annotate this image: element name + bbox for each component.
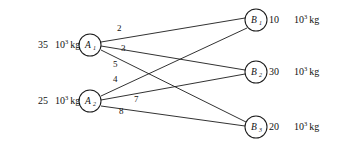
- edge-label-a2-b2: 7: [134, 94, 139, 104]
- node-a1-label: A: [84, 40, 91, 50]
- node-b3-subscript: 3: [258, 127, 262, 133]
- node-b2-subscript: 2: [259, 72, 262, 78]
- demand-b2-unit: 103kg: [294, 67, 319, 77]
- demand-b3-unit-base: 10: [294, 121, 304, 132]
- demand-b3-unit-exponent: 3: [304, 120, 307, 127]
- demand-b3-amount: 20: [269, 122, 279, 132]
- node-b1-subscript: 1: [259, 20, 262, 26]
- demand-b3-unit: 103kg: [294, 122, 319, 132]
- supply-a1-amount: 35: [30, 40, 48, 50]
- supply-a1-unit-exponent: 3: [65, 38, 68, 45]
- supply-a1-unit-base: 10: [55, 39, 65, 50]
- supply-a2-amount: 25: [30, 96, 48, 106]
- transportation-network-diagram: A 1 A 2 B 1 B 2 B 3 2 3 5 4 7 8 35 103kg…: [0, 0, 341, 149]
- edge-label-a1-b1: 2: [117, 23, 122, 33]
- supply-a2-unit-base: 10: [55, 95, 65, 106]
- demand-b2-amount: 30: [269, 67, 279, 77]
- demand-b2-unit-base: 10: [294, 66, 304, 77]
- demand-b1-unit-exponent: 3: [304, 13, 307, 20]
- node-a1-subscript: 1: [93, 45, 96, 51]
- node-b3-label: B: [251, 122, 257, 132]
- edge-label-a1-b3: 5: [113, 59, 118, 69]
- demand-b2-unit-suffix: kg: [309, 66, 319, 77]
- demand-b1-unit: 103kg: [294, 15, 319, 25]
- node-a2-subscript: 2: [93, 101, 96, 107]
- edge-label-a2-b1: 4: [113, 74, 118, 84]
- demand-b2-unit-exponent: 3: [304, 65, 307, 72]
- node-b1-label: B: [251, 15, 257, 25]
- supply-a2-unit-exponent: 3: [65, 94, 68, 101]
- edge-label-a1-b2: 3: [121, 43, 126, 53]
- demand-b3-unit-suffix: kg: [309, 121, 319, 132]
- supply-a1-unit-suffix: kg: [70, 39, 80, 50]
- edge-label-a2-b3: 8: [119, 106, 124, 116]
- node-a2-label: A: [84, 96, 91, 106]
- graph-canvas: A 1 A 2 B 1 B 2 B 3 2 3 5 4 7 8: [0, 0, 341, 149]
- node-b2-label: B: [251, 67, 257, 77]
- demand-b1-unit-suffix: kg: [309, 14, 319, 25]
- supply-a2-unit: 103kg: [55, 96, 80, 106]
- edge-a1-b1: [101, 18, 245, 42]
- supply-a1-unit: 103kg: [55, 40, 80, 50]
- demand-b1-unit-base: 10: [294, 14, 304, 25]
- edge-a2-b2: [101, 74, 245, 100]
- supply-a2-unit-suffix: kg: [70, 95, 80, 106]
- demand-b1-amount: 10: [269, 15, 279, 25]
